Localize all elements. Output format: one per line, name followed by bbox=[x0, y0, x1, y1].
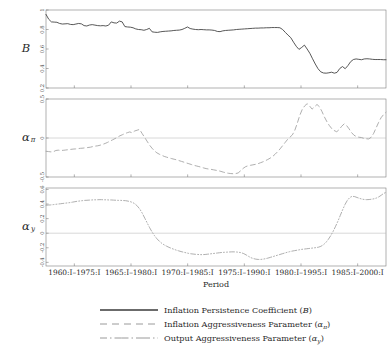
xtick-label-3: 1975:I–1990:I bbox=[218, 268, 270, 277]
ytick-label-2-1: -0.2 bbox=[39, 243, 45, 253]
ytick-label-0-1: 0.4 bbox=[39, 64, 45, 73]
ytick-label-2-5: 0.6 bbox=[39, 185, 45, 193]
ytick-label-0-2: 0.6 bbox=[39, 45, 45, 53]
ytick-label-0-0: 0.2 bbox=[39, 84, 45, 92]
legend: Inflation Persistence Coefficient (B)Inf… bbox=[100, 305, 330, 345]
xtick-label-5: 1985:I–2000:I bbox=[332, 268, 384, 277]
figure-root: 0.20.40.60.81B-0.500.5απ-0.4-0.200.20.40… bbox=[0, 0, 391, 350]
panel-axis-title-sub-1: π bbox=[30, 136, 36, 144]
ytick-label-2-3: 0.2 bbox=[39, 214, 45, 222]
legend-label-2: Output Aggressiveness Parameter (αy) bbox=[164, 333, 324, 345]
legend-label-1: Inflation Aggressiveness Parameter (απ) bbox=[164, 319, 330, 330]
x-axis-title: Period bbox=[203, 280, 229, 289]
series-line-1 bbox=[46, 104, 386, 174]
xtick-label-1: 1965:I–1980:I bbox=[105, 268, 157, 277]
multi-panel-line-chart: 0.20.40.60.81B-0.500.5απ-0.4-0.200.20.40… bbox=[0, 0, 391, 350]
ytick-label-1-0: -0.5 bbox=[39, 172, 45, 182]
panel-0: 0.20.40.60.81B bbox=[21, 8, 386, 92]
panel-axis-title-2: α bbox=[22, 219, 30, 233]
panel-frame-0 bbox=[46, 10, 386, 88]
ytick-label-1-2: 0.5 bbox=[39, 95, 45, 103]
ytick-label-2-4: 0.4 bbox=[39, 199, 45, 208]
x-axis: 1960:I–1975:I1965:I–1980:I1970:I–1985:I1… bbox=[48, 268, 384, 289]
xtick-label-0: 1960:I–1975:I bbox=[48, 268, 100, 277]
panel-axis-title-0: B bbox=[21, 41, 30, 55]
series-line-2 bbox=[46, 192, 386, 259]
series-line-0 bbox=[46, 14, 386, 73]
legend-label-0: Inflation Persistence Coefficient (B) bbox=[164, 305, 312, 315]
ytick-label-0-4: 1 bbox=[39, 8, 45, 11]
xtick-label-2: 1970:I–1985:I bbox=[162, 268, 214, 277]
panel-2: -0.4-0.200.20.40.6αy bbox=[22, 185, 386, 267]
ytick-label-2-0: -0.4 bbox=[39, 257, 45, 268]
ytick-label-0-3: 0.8 bbox=[39, 25, 45, 33]
panel-1: -0.500.5απ bbox=[22, 95, 386, 182]
ytick-label-1-1: 0 bbox=[39, 136, 45, 139]
ytick-label-2-2: 0 bbox=[39, 232, 45, 235]
panel-axis-title-1: α bbox=[22, 130, 30, 144]
panel-axis-title-sub-2: y bbox=[30, 225, 36, 233]
xtick-label-4: 1980:I–1995:I bbox=[275, 268, 327, 277]
